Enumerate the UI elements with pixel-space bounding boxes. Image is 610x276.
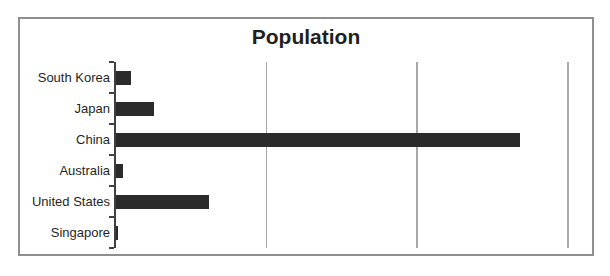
category-axis-labels: South KoreaJapanChinaAustraliaUnited Sta… — [20, 62, 110, 248]
category-label-japan: Japan — [20, 93, 110, 124]
axis-tick — [109, 154, 114, 156]
bar-row-united-states — [116, 186, 568, 217]
bar-row-japan — [116, 93, 568, 124]
bar-row-south-korea — [116, 62, 568, 93]
chart-title: Population — [20, 25, 592, 49]
bars — [116, 62, 568, 248]
bar-china — [116, 133, 520, 147]
population-bar-chart: Population South KoreaJapanChinaAustrali… — [0, 0, 610, 276]
category-label-singapore: Singapore — [20, 217, 110, 248]
axis-tick — [109, 216, 114, 218]
bar-row-singapore — [116, 217, 568, 248]
bar-row-china — [116, 124, 568, 155]
category-label-china: China — [20, 124, 110, 155]
axis-tick — [109, 247, 114, 249]
bar-australia — [116, 164, 123, 178]
category-label-united-states: United States — [20, 186, 110, 217]
axis-tick — [109, 61, 114, 63]
bar-south-korea — [116, 71, 131, 85]
category-label-south-korea: South Korea — [20, 62, 110, 93]
bar-japan — [116, 102, 154, 116]
axis-tick — [109, 185, 114, 187]
axis-tick — [109, 123, 114, 125]
axis-tick — [109, 92, 114, 94]
plot-area — [116, 62, 568, 248]
bar-united-states — [116, 195, 209, 209]
category-label-australia: Australia — [20, 155, 110, 186]
bar-row-australia — [116, 155, 568, 186]
bar-singapore — [116, 226, 118, 240]
chart-frame: Population South KoreaJapanChinaAustrali… — [18, 17, 594, 256]
